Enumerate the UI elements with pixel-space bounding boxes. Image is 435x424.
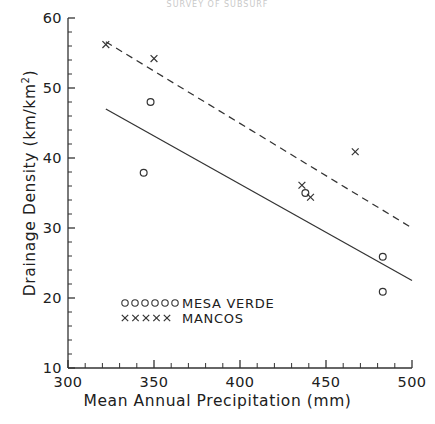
x-tick-label: 500 (398, 374, 427, 390)
data-point-mancos (352, 148, 359, 155)
data-point-mesa-verde (302, 190, 309, 197)
data-point-mancos (151, 55, 158, 62)
data-point-mancos (299, 182, 306, 189)
x-axis-title: Mean Annual Precipitation (mm) (0, 392, 435, 410)
y-tick-label: 60 (43, 10, 62, 26)
plot-legend: MESA VERDEMANCOS (122, 296, 275, 326)
legend-cross-marker (122, 315, 128, 321)
x-tick-label: 400 (226, 374, 255, 390)
x-tick-label: 300 (54, 374, 83, 390)
legend-label-mesa-verde: MESA VERDE (182, 296, 274, 311)
data-point-mancos (307, 194, 314, 201)
y-axis-title-main: Drainage Density (km/km (21, 83, 39, 296)
legend-circle-marker (122, 300, 128, 306)
x-tick-label: 350 (140, 374, 169, 390)
legend-cross-marker (143, 315, 149, 321)
trend-line-mesa-verde (106, 109, 412, 281)
scatter-plot: 102030405060300350400450500 MESA VERDEMA… (0, 0, 435, 424)
axis-tick-labels: 102030405060300350400450500 (43, 10, 427, 390)
data-point-mesa-verde (379, 288, 386, 295)
trend-lines (106, 42, 412, 281)
legend-circle-marker (152, 300, 158, 306)
y-axis-title: Drainage Density (km/km2) (20, 18, 39, 348)
legend-cross-marker (164, 315, 170, 321)
legend-cross-marker (153, 315, 159, 321)
figure-container: SURVEY OF SUBSURF 1020304050603003504004… (0, 0, 435, 424)
y-axis-title-exponent: 2 (20, 76, 31, 83)
x-tick-label: 450 (312, 374, 341, 390)
legend-label-mancos: MANCOS (182, 311, 244, 326)
y-tick-label: 50 (43, 80, 62, 96)
y-tick-label: 30 (43, 220, 62, 236)
data-point-mesa-verde (379, 253, 386, 260)
data-point-mesa-verde (147, 99, 154, 106)
data-point-mesa-verde (140, 169, 147, 176)
legend-circle-marker (132, 300, 138, 306)
y-axis-title-close: ) (21, 70, 39, 77)
data-points (102, 41, 386, 295)
legend-cross-marker (132, 315, 138, 321)
legend-circle-marker (162, 300, 168, 306)
legend-circle-marker (172, 300, 178, 306)
legend-circle-marker (142, 300, 148, 306)
y-tick-label: 40 (43, 150, 62, 166)
y-tick-label: 20 (43, 290, 62, 306)
